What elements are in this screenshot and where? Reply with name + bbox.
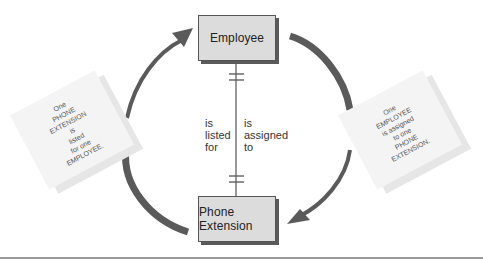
entity-phone-extension-label: Phone Extension: [199, 205, 275, 233]
label-left-line-2: listed: [205, 129, 231, 141]
label-right-line-2: assigned: [244, 129, 288, 141]
er-diagram: One PHONE EXTENSION is listed for one EM…: [0, 0, 483, 261]
label-left-line-1: is: [205, 117, 231, 129]
left-arrow-up-icon: [126, 28, 193, 232]
label-right-line-3: to: [244, 141, 288, 153]
entity-employee-label: Employee: [210, 31, 264, 45]
note-right-text: One EMPLOYEE is assigned to one PHONE EX…: [369, 96, 432, 164]
entity-employee: Employee: [198, 15, 276, 61]
note-left-text: One PHONE EXTENSION is listed for one EM…: [39, 93, 104, 168]
relationship-label-right: is assigned to: [244, 117, 288, 153]
right-arrow-down-icon: [287, 36, 350, 224]
bottom-divider: [0, 257, 483, 259]
relationship-label-left: is listed for: [205, 117, 231, 153]
label-right-line-1: is: [244, 117, 288, 129]
label-left-line-3: for: [205, 141, 231, 153]
entity-phone-extension: Phone Extension: [198, 196, 276, 242]
